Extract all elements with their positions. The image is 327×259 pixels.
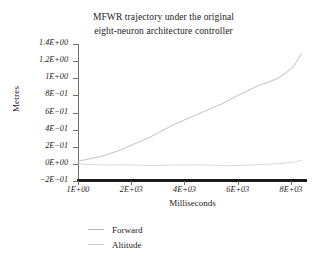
- legend-item-altitude: Altitude: [88, 237, 248, 252]
- legend-swatch-altitude: [88, 244, 104, 245]
- series-line-altitude: [78, 160, 302, 165]
- y-tick-label: 2E−01: [22, 141, 68, 150]
- chart-legend: Forward Altitude: [88, 222, 248, 252]
- y-tick-label: 0E+00: [22, 158, 68, 167]
- legend-swatch-forward: [88, 229, 104, 230]
- y-tick-label: 6E−01: [22, 107, 68, 116]
- legend-label-forward: Forward: [112, 225, 143, 235]
- x-tick-label: 4E+03: [162, 185, 206, 194]
- x-tick-label: 6E+03: [216, 185, 260, 194]
- y-tick-label: 1.4E+00: [22, 38, 68, 47]
- chart-title: MFWR trajectory under the original eight…: [0, 11, 327, 38]
- legend-label-altitude: Altitude: [112, 240, 142, 250]
- y-tick-label: 8E−01: [22, 89, 68, 98]
- legend-item-forward: Forward: [88, 222, 248, 237]
- y-axis-label: Metres: [11, 69, 21, 129]
- chart-title-line-2: eight-neuron architecture controller: [0, 25, 327, 39]
- y-tick-label: 4E−01: [22, 124, 68, 133]
- y-tick-label: 1E+00: [22, 72, 68, 81]
- plot-area: [78, 44, 307, 181]
- chart-title-line-1: MFWR trajectory under the original: [0, 11, 327, 25]
- x-tick-label: 2E+03: [109, 185, 153, 194]
- x-tick-label: 1E+00: [56, 185, 100, 194]
- series-line-forward: [78, 53, 302, 161]
- x-tick-label: 8E+03: [269, 185, 313, 194]
- series-lines: [78, 44, 307, 181]
- y-tick-label: 1.2E+00: [22, 55, 68, 64]
- x-axis-label: Milliseconds: [78, 198, 307, 208]
- y-tick-label: −2E−01: [22, 175, 68, 184]
- chart-figure: MFWR trajectory under the original eight…: [0, 0, 327, 259]
